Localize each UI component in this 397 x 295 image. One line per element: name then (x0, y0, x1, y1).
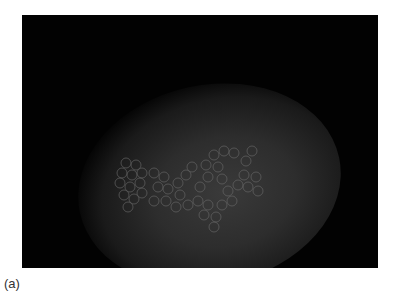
detected-spot-circles (22, 15, 378, 268)
micrograph-image (22, 15, 378, 268)
figure-caption: (a) (4, 276, 20, 291)
